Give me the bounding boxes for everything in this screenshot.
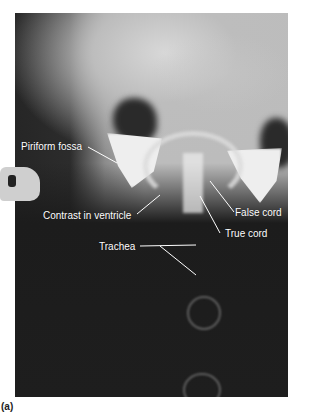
label-piriform-fossa: Piriform fossa xyxy=(21,141,82,152)
label-false-cord: False cord xyxy=(235,207,282,218)
label-contrast-in-ventricle: Contrast in ventricle xyxy=(43,210,131,221)
leader-contrast-ventricle xyxy=(137,195,160,214)
label-true-cord: True cord xyxy=(225,228,267,239)
leader-true-cord xyxy=(200,196,220,233)
leader-piriform-fossa xyxy=(88,147,117,163)
leader-trachea-1 xyxy=(140,245,196,246)
label-trachea: Trachea xyxy=(99,241,135,252)
leader-false-cord xyxy=(210,181,234,212)
leader-trachea-2 xyxy=(160,246,196,275)
